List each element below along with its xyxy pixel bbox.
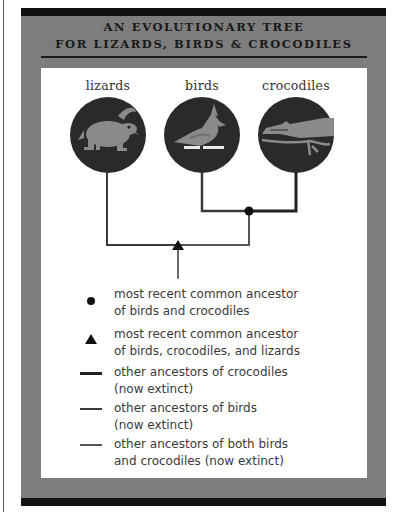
crocodile-icon (258, 97, 334, 173)
lizard-branch (107, 173, 178, 245)
light-line-swatch-icon (80, 438, 102, 452)
bird-icon (164, 97, 240, 173)
legend-text: other ancestors of birds (now extinct) (114, 400, 364, 434)
dot-icon (80, 294, 102, 308)
lizard-icon (70, 97, 146, 173)
birds-crocodiles-stem (178, 211, 249, 245)
legend-text: other ancestors of crocodiles (now extin… (114, 364, 364, 398)
legend-text: most recent common ancestor of birds and… (114, 286, 364, 320)
dark-line-swatch-icon (80, 366, 102, 380)
triangle-icon (80, 332, 102, 346)
legend-text: most recent common ancestor of birds, cr… (114, 326, 364, 360)
legend-text: other ancestors of both birds and crocod… (114, 436, 364, 470)
bird-branch (202, 173, 249, 211)
crocodile-branch (249, 173, 296, 211)
medium-line-swatch-icon (80, 402, 102, 416)
birds-crocodiles-ancestor-dot (245, 207, 254, 216)
tree-branches (107, 173, 296, 278)
